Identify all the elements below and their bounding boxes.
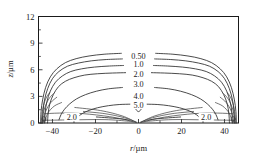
y-tick-label: 0 [30,118,34,128]
x-tick-label: −40 [46,126,59,136]
contour-label: 2.0 [133,70,143,79]
y-axis-tick-labels: 036912 [26,12,35,129]
contour-label: 2.0 [201,113,211,122]
contour-label: 1.0 [133,60,143,69]
y-tick-label: 3 [30,91,34,101]
x-tick-label: −20 [89,126,102,136]
contour-plot-canvas: 0.501.02.03.04.05.02.02.0 036912 −40−200… [0,0,255,157]
x-tick-label: 20 [177,126,186,136]
baseline-strand-path [43,120,137,123]
contour-label: 2.0 [67,113,77,122]
contour-label: 5.0 [133,101,143,110]
contour-plot-figure: 0.501.02.03.04.05.02.02.0 036912 −40−200… [0,0,255,157]
x-tick-label: 40 [220,126,229,136]
y-tick-label: 9 [30,38,34,48]
x-axis-title: r/µm [130,143,148,153]
y-axis-title: z/µm [5,60,15,79]
x-tick-label: 0 [136,126,140,136]
baseline-strand-path [141,120,235,123]
y-tick-label: 12 [26,12,35,22]
contour-label: 3.0 [133,80,143,89]
x-axis-tick-labels: −40−2002040 [46,126,229,136]
y-tick-label: 6 [30,65,34,75]
